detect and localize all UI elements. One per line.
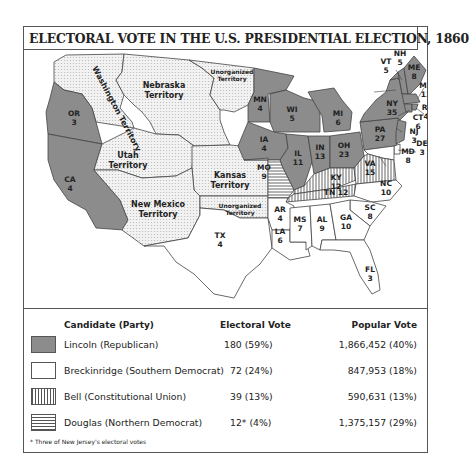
state-label-il: IL11: [293, 149, 303, 167]
state-label-nh: NH5: [394, 50, 407, 67]
state-label-va: VA15: [364, 159, 375, 177]
state-label-nc: NC10: [380, 179, 392, 197]
title-box: ELECTORAL VOTE IN THE U.S. PRESIDENTIAL …: [23, 26, 418, 50]
swatch-douglas: [31, 414, 56, 431]
electoral-vote: 39 (13%): [230, 391, 273, 402]
electoral-vote: 72 (24%): [230, 365, 273, 376]
state-label-de: DE3: [416, 139, 427, 157]
swatch-lincoln: [31, 336, 56, 353]
electoral-vote: 180 (59%): [224, 339, 273, 350]
header-candidate: Candidate (Party): [64, 320, 154, 330]
map-title: ELECTORAL VOTE IN THE U.S. PRESIDENTIAL …: [29, 31, 469, 46]
candidate-name: Breckinridge (Southern Democrat): [64, 365, 224, 376]
state-label-ga: GA10: [340, 213, 352, 231]
candidate-name: Douglas (Northern Democrat): [64, 417, 202, 428]
state-nj: [396, 120, 406, 144]
footnote: * Three of New Jersey's electoral votes: [30, 438, 146, 445]
header-popular: Popular Vote: [352, 320, 417, 330]
label-kansas: KansasTerritory: [211, 171, 251, 190]
state-label-tn: TN 12: [324, 188, 348, 197]
popular-vote: 1,866,452 (40%): [339, 339, 417, 350]
legend: Candidate (Party) Electoral Vote Popular…: [24, 310, 427, 452]
popular-vote: 847,953 (18%): [348, 365, 417, 376]
state-ma: [402, 94, 420, 104]
us-map: Washington Territory NebraskaTerritory U…: [24, 50, 427, 306]
electoral-vote: 12* (4%): [230, 417, 271, 428]
candidate-name: Bell (Constitutional Union): [64, 391, 186, 402]
state-label-ny: NY35: [386, 99, 398, 117]
header-electoral: Electoral Vote: [220, 320, 291, 330]
swatch-breckinridge: [31, 362, 56, 379]
state-label-pa: PA27: [375, 125, 386, 143]
label-new-mexico: New MexicoTerritory: [131, 200, 185, 219]
state-label-ma: MA13: [419, 81, 427, 99]
legend-row-bell: Bell (Constitutional Union) 39 (13%) 590…: [24, 386, 427, 410]
state-label-oh: OH23: [338, 141, 351, 159]
state-label-in: IN13: [315, 143, 325, 161]
candidate-name: Lincoln (Republican): [64, 339, 158, 350]
state-label-md: MD8: [401, 147, 415, 165]
legend-row-breckinridge: Breckinridge (Southern Democrat) 72 (24%…: [24, 360, 427, 384]
legend-row-lincoln: Lincoln (Republican) 180 (59%) 1,866,452…: [24, 334, 427, 358]
legend-divider: [23, 308, 428, 309]
popular-vote: 1,375,157 (29%): [339, 417, 417, 428]
swatch-bell: [31, 388, 56, 405]
popular-vote: 590,631 (13%): [348, 391, 417, 402]
state-label-vt: VT5: [381, 57, 393, 75]
legend-row-douglas: Douglas (Northern Democrat) 12* (4%) 1,3…: [24, 412, 427, 436]
state-nc: [354, 180, 402, 202]
label-nebraska: NebraskaTerritory: [143, 81, 186, 100]
state-de: [394, 144, 400, 154]
